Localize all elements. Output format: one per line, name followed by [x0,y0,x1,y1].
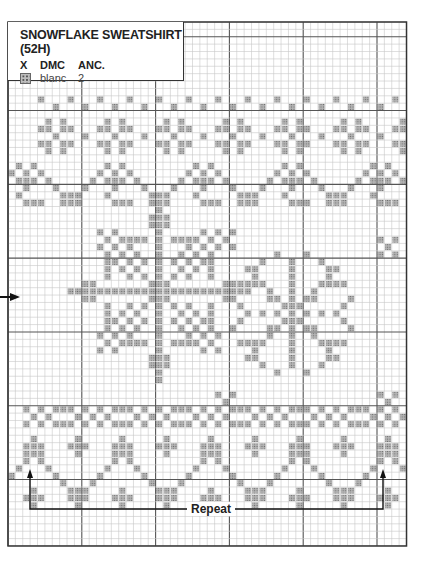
stitch [296,443,302,449]
stitch [60,141,66,147]
stitch [149,200,155,206]
stitch [200,170,206,176]
stitch [348,421,354,427]
stitch [156,222,162,228]
stitch [230,296,236,302]
stitch [164,281,170,287]
stitch [400,465,406,471]
stitch [68,406,74,412]
stitch [156,126,162,132]
stitch [31,488,37,494]
stitch [355,178,361,184]
stitch [215,96,221,102]
stitch [141,318,147,324]
stitch [200,185,206,191]
stitch [200,104,206,110]
stitch [119,502,125,508]
stitch [282,465,288,471]
stitch [82,104,88,110]
stitch [127,126,133,132]
stitch [82,281,88,287]
stitch [385,488,391,494]
stitch [260,104,266,110]
stitch [304,170,310,176]
stitch [215,347,221,353]
stitch [186,237,192,243]
stitch [97,406,103,412]
stitch [237,288,243,294]
stitch [223,148,229,154]
stitch [230,392,236,398]
stitch [355,421,361,427]
stitch [282,414,288,420]
stitch [348,325,354,331]
stitch [245,200,251,206]
stitch [60,480,66,486]
stitch [355,406,361,412]
stitch [46,119,52,125]
stitch [378,458,384,464]
stitch [60,192,66,198]
stitch [260,488,266,494]
stitch [127,451,133,457]
stitch [252,495,258,501]
stitch [304,495,310,501]
stitch [134,310,140,316]
stitch [156,229,162,235]
legend-row: blanc 2 [20,72,183,84]
stitch [134,325,140,331]
stitch [230,473,236,479]
stitch [105,237,111,243]
stitch [156,333,162,339]
stitch [186,288,192,294]
stitch [296,488,302,494]
stitch [333,421,339,427]
stitch [23,495,29,501]
stitch [208,495,214,501]
stitch [97,229,103,235]
stitch [355,119,361,125]
stitch [333,495,339,501]
stitch [237,141,243,147]
stitch [38,458,44,464]
stitch [134,340,140,346]
stitch [97,96,103,102]
stitch [127,318,133,324]
stitch [164,502,170,508]
stitch [237,126,243,132]
stitch [237,318,243,324]
stitch [245,96,251,102]
stitch [68,141,74,147]
stitch [149,480,155,486]
stitch [97,141,103,147]
stitch [31,502,37,508]
stitch [274,406,280,412]
stitch [341,281,347,287]
stitch [333,406,339,412]
stitch [193,163,199,169]
stitch [97,288,103,294]
stitch [208,325,214,331]
stitch [82,288,88,294]
stitch [127,303,133,309]
stitch [378,170,384,176]
stitch [370,163,376,169]
stitch [319,259,325,265]
stitch [38,141,44,147]
stitch [68,488,74,494]
stitch [223,126,229,132]
stitch [348,104,354,110]
stitch [119,310,125,316]
stitch [304,200,310,206]
stitch [119,126,125,132]
stitch [326,340,332,346]
stitch [274,421,280,427]
stitch [260,362,266,368]
stitch [156,207,162,213]
stitch [267,480,273,486]
stitch [274,296,280,302]
stitch [333,355,339,361]
stitch [252,355,258,361]
stitch [105,126,111,132]
stitch [289,296,295,302]
